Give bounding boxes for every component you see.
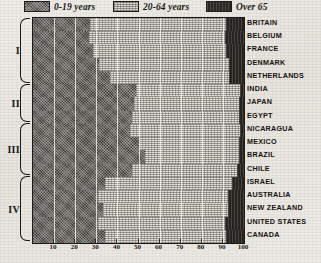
table-row: [33, 71, 244, 84]
bar-segment-mid: [132, 111, 239, 124]
table-row: [33, 111, 244, 124]
country-label: BRAZIL: [247, 149, 275, 160]
country-label: INDIA: [247, 83, 268, 94]
group-bracket-III: III: [10, 123, 32, 175]
axis-tick-label: 40: [113, 243, 120, 251]
bar-segment-mid: [90, 18, 226, 31]
country-label: UNITED STATES: [247, 216, 306, 227]
group-numeral: III: [0, 144, 20, 155]
group-numeral: I: [0, 45, 20, 56]
bar-segment-old: [239, 137, 244, 150]
country-label: CANADA: [247, 229, 280, 240]
bar-segment-mid: [132, 164, 236, 177]
bar-segment-young: [33, 217, 98, 230]
bar-rows: [33, 18, 244, 243]
table-row: [33, 164, 244, 177]
axis-tick-label: 50: [134, 243, 141, 251]
country-label: NETHERLANDS: [247, 70, 304, 81]
bar-segment-mid: [93, 44, 226, 57]
table-row: [33, 44, 244, 57]
group-bracket-II: II: [10, 84, 32, 123]
bar-segment-old: [225, 217, 244, 230]
bar-segment-old: [225, 31, 244, 44]
bar-segment-young: [33, 84, 136, 97]
country-label: DENMARK: [247, 57, 285, 68]
axis-tick-label: 60: [155, 243, 162, 251]
bar-segment-old: [228, 203, 244, 216]
axis-tick-label: 20: [71, 243, 78, 251]
country-label: ISRAEL: [247, 176, 275, 187]
bar-segment-mid: [98, 190, 228, 203]
bar-segment-mid: [98, 217, 225, 230]
x-axis: 102030405060708090100: [32, 243, 243, 257]
country-label: CHILE: [247, 163, 270, 174]
country-label: AUSTRALIA: [247, 189, 291, 200]
bar-segment-old: [239, 150, 244, 163]
country-label: NICARAGUA: [247, 123, 293, 134]
legend-item-0: 0-19 years: [24, 1, 95, 12]
table-row: [33, 84, 244, 97]
bracket-shape: [20, 18, 30, 83]
axis-tick-label: 90: [218, 243, 225, 251]
bar-segment-mid: [105, 230, 226, 243]
bar-segment-young: [33, 230, 105, 243]
country-label: NEW ZEALAND: [247, 202, 303, 213]
country-labels: BRITAINBELGIUMFRANCEDENMARKNETHERLANDSIN…: [247, 17, 321, 242]
country-label: BELGIUM: [247, 30, 282, 41]
table-row: [33, 230, 244, 243]
bar-segment-old: [232, 177, 244, 190]
table-row: [33, 177, 244, 190]
bar-segment-mid: [103, 203, 229, 216]
group-numeral: II: [0, 98, 20, 109]
table-row: [33, 18, 244, 31]
bar-segment-young: [33, 190, 98, 203]
bar-segment-mid: [110, 71, 229, 84]
bar-segment-old: [228, 190, 244, 203]
bar-segment-old: [226, 18, 244, 31]
bar-segment-old: [240, 84, 244, 97]
bar-segment-mid: [89, 31, 225, 44]
axis-tick-label: 100: [238, 243, 249, 251]
young-swatch-icon: [24, 1, 50, 12]
bar-segment-old: [239, 111, 244, 124]
bar-segment-mid: [136, 84, 239, 97]
old-swatch-icon: [206, 1, 232, 12]
bar-segment-young: [33, 58, 99, 71]
bar-segment-young: [33, 111, 132, 124]
table-row: [33, 97, 244, 110]
group-bracket-I: I: [10, 18, 32, 83]
legend-item-2: Over 65: [206, 1, 268, 12]
bar-segment-young: [33, 177, 105, 190]
country-label: MEXICO: [247, 136, 277, 147]
country-label: JAPAN: [247, 96, 272, 107]
bar-segment-old: [237, 164, 244, 177]
table-row: [33, 137, 244, 150]
legend: 0-19 years 20-64 years Over 65: [0, 0, 321, 16]
bracket-shape: [20, 123, 30, 175]
country-label: BRITAIN: [247, 17, 277, 28]
bar-segment-old: [226, 230, 244, 243]
mid-swatch-icon: [113, 1, 139, 12]
table-row: [33, 203, 244, 216]
bar-segment-young: [33, 124, 130, 137]
bar-segment-mid: [105, 177, 233, 190]
bar-segment-mid: [145, 150, 239, 163]
bracket-shape: [20, 84, 30, 123]
group-numeral: IV: [0, 203, 20, 214]
bar-segment-mid: [134, 97, 238, 110]
bar-segment-young: [33, 97, 134, 110]
bracket-shape: [20, 176, 30, 241]
legend-item-1: 20-64 years: [113, 1, 189, 12]
axis-tick-label: 80: [197, 243, 204, 251]
group-brackets: IIIIIIIV: [0, 17, 32, 242]
country-label: EGYPT: [247, 110, 273, 121]
axis-tick-label: 70: [176, 243, 183, 251]
country-label: FRANCE: [247, 43, 278, 54]
bar-segment-old: [240, 124, 244, 137]
bar-segment-old: [239, 97, 244, 110]
bar-segment-young: [33, 44, 93, 57]
bar-segment-young: [33, 150, 145, 163]
bar-segment-mid: [139, 137, 239, 150]
legend-label-0: 0-19 years: [54, 2, 95, 12]
axis-tick-label: 10: [50, 243, 57, 251]
